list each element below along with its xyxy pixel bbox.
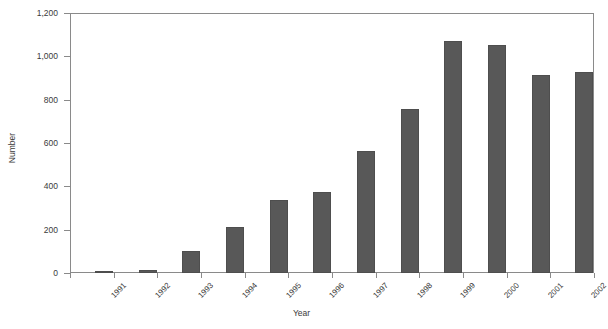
x-tick-mark [507, 273, 508, 278]
x-tick-label: 1991 [109, 281, 128, 300]
x-axis-title: Year [0, 308, 603, 318]
x-tick-mark [245, 273, 246, 278]
x-tick-label: 1992 [153, 281, 172, 300]
x-tick-mark [332, 273, 333, 278]
x-tick-mark [376, 273, 377, 278]
x-tick-label: 1997 [371, 281, 390, 300]
x-tick-label: 1994 [240, 281, 259, 300]
x-tick-mark [70, 273, 71, 278]
x-tick-mark [201, 273, 202, 278]
x-tick-mark [114, 273, 115, 278]
x-tick-mark [419, 273, 420, 278]
x-tick-label: 1995 [284, 281, 303, 300]
x-tick-label: 1993 [197, 281, 216, 300]
x-tick-mark [157, 273, 158, 278]
x-tick-mark [288, 273, 289, 278]
x-tick-label: 2001 [546, 281, 565, 300]
x-tick-label: 1996 [328, 281, 347, 300]
x-tick-label: 2002 [590, 281, 608, 300]
x-tick-mark [594, 273, 595, 278]
x-tick-label: 1998 [415, 281, 434, 300]
x-tick-label: 2000 [502, 281, 521, 300]
x-tick-label: 1999 [459, 281, 478, 300]
x-tick-mark [550, 273, 551, 278]
x-tick-mark [463, 273, 464, 278]
